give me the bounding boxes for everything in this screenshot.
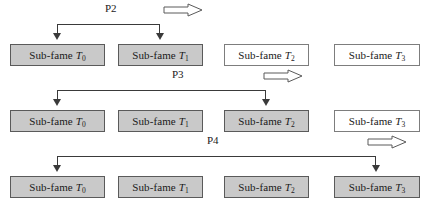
right-block-arrow-icon xyxy=(367,135,407,149)
subframe-box-t0[interactable]: Sub-fame T0 xyxy=(10,176,105,198)
arrowhead-down-right xyxy=(372,165,380,172)
bracket-rail xyxy=(57,24,160,25)
right-block-arrow-icon xyxy=(163,3,203,17)
subframe-box-label: Sub-fame T3 xyxy=(349,49,406,61)
subframe-box-label: Sub-fame T1 xyxy=(132,181,189,193)
subframe-box-label: Sub-fame T0 xyxy=(29,181,86,193)
subframe-box-t3[interactable]: Sub-fame T3 xyxy=(334,110,420,132)
subframe-box-label: Sub-fame T2 xyxy=(238,49,295,61)
subframe-box-t3[interactable]: Sub-fame T3 xyxy=(334,44,420,66)
arrowhead-down-right xyxy=(156,33,164,40)
subframe-box-t0[interactable]: Sub-fame T0 xyxy=(10,110,105,132)
bracket-connector-p4 xyxy=(57,156,376,172)
subframe-progression-diagram: P2 Sub-fame T0 Sub-fame T1 Sub-fame T2 S… xyxy=(0,0,429,204)
subframe-box-label: Sub-fame T3 xyxy=(349,115,406,127)
subframe-box-t1[interactable]: Sub-fame T1 xyxy=(118,110,203,132)
subframe-box-t1[interactable]: Sub-fame T1 xyxy=(118,176,203,198)
subframe-box-label: Sub-fame T1 xyxy=(132,115,189,127)
phase-label-p2: P2 xyxy=(105,2,117,14)
bracket-rail xyxy=(57,156,376,157)
right-block-arrow-icon xyxy=(263,69,303,83)
subframe-box-label: Sub-fame T3 xyxy=(349,181,406,193)
subframe-box-label: Sub-fame T1 xyxy=(132,49,189,61)
subframe-box-t0[interactable]: Sub-fame T0 xyxy=(10,44,105,66)
diagram-row-p4: P4 Sub-fame T0 Sub-fame T1 Sub-fame T2 S… xyxy=(0,132,429,200)
arrowhead-down-left xyxy=(53,165,61,172)
phase-label-p3: P3 xyxy=(172,68,184,80)
subframe-box-t2[interactable]: Sub-fame T2 xyxy=(224,110,309,132)
subframe-box-t2[interactable]: Sub-fame T2 xyxy=(224,176,309,198)
subframe-box-label: Sub-fame T2 xyxy=(238,115,295,127)
subframe-box-t3[interactable]: Sub-fame T3 xyxy=(334,176,420,198)
diagram-row-p2: P2 Sub-fame T0 Sub-fame T1 Sub-fame T2 S… xyxy=(0,0,429,68)
diagram-row-p3: P3 Sub-fame T0 Sub-fame T1 Sub-fame T2 S… xyxy=(0,66,429,134)
phase-label-p4: P4 xyxy=(207,134,219,146)
bracket-rail xyxy=(57,90,266,91)
subframe-box-label: Sub-fame T0 xyxy=(29,49,86,61)
subframe-box-label: Sub-fame T2 xyxy=(238,181,295,193)
arrowhead-down-left xyxy=(53,99,61,106)
subframe-box-t2[interactable]: Sub-fame T2 xyxy=(224,44,309,66)
bracket-connector-p3 xyxy=(57,90,266,106)
bracket-connector-p2 xyxy=(57,24,160,40)
arrowhead-down-left xyxy=(53,33,61,40)
arrowhead-down-right xyxy=(262,99,270,106)
subframe-box-label: Sub-fame T0 xyxy=(29,115,86,127)
subframe-box-t1[interactable]: Sub-fame T1 xyxy=(118,44,203,66)
